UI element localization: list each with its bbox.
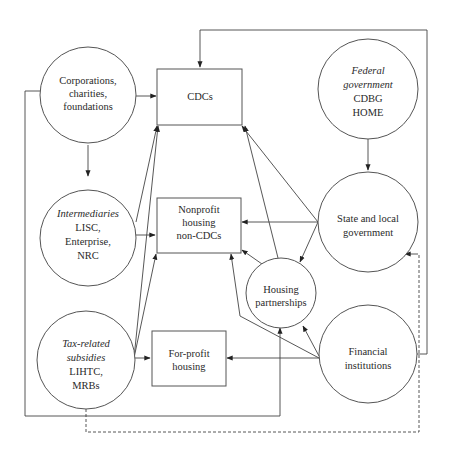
corporations-line-2: charities,	[69, 88, 107, 99]
financial-line-2: institutions	[345, 360, 392, 371]
corporations-line-1: Corporations,	[59, 75, 116, 86]
edge-financial-to-housing-partnerships	[303, 326, 319, 356]
intermediaries-line-2: LISC,	[75, 222, 100, 233]
edge-state-local-to-housing-partnerships	[300, 222, 318, 262]
federal-line-4: HOME	[353, 107, 384, 118]
node-housing-partnerships: Housing partnerships	[246, 258, 316, 328]
tax-related-line-2: subsidies	[67, 352, 106, 363]
federal-line-3: CDBG	[353, 93, 383, 104]
node-corporations: Corporations, charities, foundations	[40, 47, 136, 143]
state-local-line-2: government	[343, 227, 393, 238]
federal-line-1: Federal	[350, 65, 384, 76]
node-state-local-government: State and local government	[318, 172, 418, 272]
node-cdcs: CDCs	[157, 69, 242, 125]
node-nonprofit-housing: Nonprofit housing non-CDCs	[157, 198, 241, 253]
edge-housing-partnerships-to-cdcs	[245, 126, 278, 258]
intermediaries-line-1: Intermediaries	[56, 208, 119, 219]
node-tax-related-subsidies: Tax-related subsidies LIHTC, MRBs	[37, 311, 135, 409]
tax-related-line-1: Tax-related	[62, 338, 110, 349]
housing-finance-flow-diagram: Corporations, charities, foundations CDC…	[0, 0, 449, 457]
node-financial-institutions: Financial institutions	[319, 305, 417, 403]
corporations-line-3: foundations	[63, 101, 113, 112]
node-for-profit-housing: For-profit housing	[152, 331, 226, 386]
cdcs-label: CDCs	[187, 91, 213, 102]
housing-partnerships-line-1: Housing	[263, 284, 299, 295]
nonprofit-line-3: non-CDCs	[177, 230, 222, 241]
nonprofit-line-2: housing	[182, 217, 216, 228]
for-profit-line-1: For-profit	[168, 348, 209, 359]
edge-tax-related-to-cdcs	[134, 126, 158, 358]
tax-related-line-3: LIHTC,	[69, 366, 103, 377]
edge-housing-partnerships-to-nonprofit	[242, 250, 262, 264]
federal-line-2: government	[343, 79, 394, 90]
edge-state-local-to-cdcs	[242, 126, 318, 222]
for-profit-line-2: housing	[172, 361, 206, 372]
financial-line-1: Financial	[348, 346, 387, 357]
edge-intermediaries-to-cdcs	[136, 126, 157, 222]
intermediaries-line-3: Enterprise,	[65, 236, 111, 247]
housing-partnerships-line-2: partnerships	[255, 297, 306, 308]
node-federal-government: Federal government CDBG HOME	[318, 39, 418, 139]
state-local-line-1: State and local	[337, 213, 399, 224]
intermediaries-line-4: NRC	[77, 250, 99, 261]
tax-related-line-4: MRBs	[72, 380, 99, 391]
node-intermediaries: Intermediaries LISC, Enterprise, NRC	[40, 190, 136, 286]
nonprofit-line-1: Nonprofit	[178, 204, 219, 215]
